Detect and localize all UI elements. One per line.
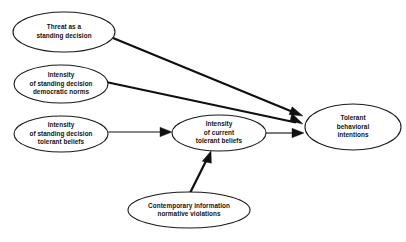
node-label: Contemporary information <box>148 202 230 210</box>
edge-contemporary-to-current-beliefs <box>190 151 211 193</box>
node-label: Tolerant <box>340 114 366 121</box>
node-label: intentions <box>337 131 368 138</box>
arrowhead-icon <box>160 127 172 137</box>
edge-standing-beliefs-to-current-beliefs <box>108 127 172 137</box>
edge-current-beliefs-to-intentions <box>266 128 304 138</box>
node-label: tolerant beliefs <box>196 137 243 144</box>
node-label: of current <box>204 129 235 136</box>
node-label: normative violations <box>157 210 221 217</box>
node-label: standing decision <box>36 32 91 40</box>
arrowhead-icon <box>202 151 211 163</box>
node-label: Intensity <box>206 120 233 128</box>
node-label: of standing decision <box>29 130 92 138</box>
node-tolerant-behavioral-intentions[interactable]: Tolerant behavioral intentions <box>305 104 401 150</box>
arrowhead-icon <box>289 107 303 116</box>
node-current-tolerant-beliefs[interactable]: Intensity of current tolerant beliefs <box>172 115 266 151</box>
edge-line <box>190 158 208 193</box>
path-diagram-canvas: Threat as a standing decision Intensity … <box>0 0 406 242</box>
node-label: of standing decision <box>29 80 92 88</box>
node-label: tolerant beliefs <box>38 138 85 145</box>
node-label: democratic norms <box>33 88 90 95</box>
path-diagram-svg: Threat as a standing decision Intensity … <box>0 0 406 242</box>
arrowhead-icon <box>292 128 304 138</box>
node-tolerant-beliefs-standing[interactable]: Intensity of standing decision tolerant … <box>14 116 108 152</box>
node-label: Threat as a <box>47 23 82 30</box>
node-contemporary-information[interactable]: Contemporary information normative viola… <box>128 192 250 228</box>
node-label: Intensity <box>48 71 75 79</box>
node-label: Intensity <box>48 121 75 129</box>
node-democratic-norms[interactable]: Intensity of standing decision democrati… <box>14 65 108 103</box>
node-threat[interactable]: Threat as a standing decision <box>13 12 115 52</box>
node-label: behavioral <box>337 123 370 130</box>
